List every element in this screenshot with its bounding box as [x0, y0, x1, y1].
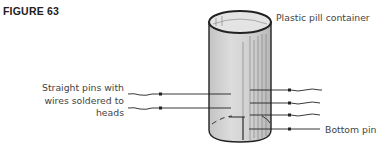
pill-container-diagram [0, 0, 390, 156]
pill-container-icon [209, 11, 271, 142]
